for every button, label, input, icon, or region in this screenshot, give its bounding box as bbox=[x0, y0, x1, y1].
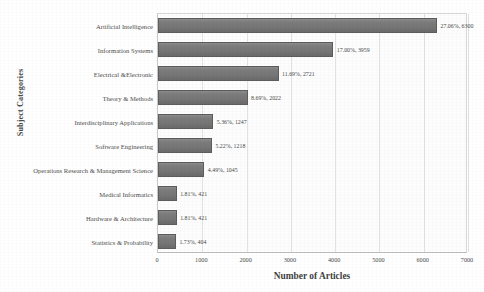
bar-value-label: 5.22%, 1218 bbox=[215, 143, 245, 149]
bar: 5.36%, 1247 bbox=[158, 114, 213, 129]
x-axis-tick-label: 2000 bbox=[239, 256, 251, 263]
bar-value-label: 5.36%, 1247 bbox=[217, 119, 247, 125]
bar: 8.69%, 2022 bbox=[158, 90, 248, 105]
bar: 27.06%, 6300 bbox=[158, 18, 437, 33]
bar-row: Medical Informatics1.81%, 421 bbox=[158, 182, 466, 206]
category-label: Theory & Methods bbox=[102, 95, 153, 102]
bar-fill bbox=[158, 210, 177, 225]
bar-value-label: 1.73%, 404 bbox=[179, 239, 206, 245]
bar-row: Interdisciplinary Applications5.36%, 124… bbox=[158, 110, 466, 134]
bar-value-label: 4.49%, 1045 bbox=[208, 167, 238, 173]
x-axis-tick-label: 1000 bbox=[195, 256, 207, 263]
plot-area: Artificial Intelligence27.06%, 6300Infor… bbox=[157, 13, 467, 253]
x-axis-tick-label: 3000 bbox=[284, 256, 296, 263]
bar: 4.49%, 1045 bbox=[158, 162, 204, 177]
bar-fill bbox=[158, 186, 177, 201]
gridline bbox=[468, 14, 469, 252]
category-label: Information Systems bbox=[98, 47, 153, 54]
bar: 5.22%, 1218 bbox=[158, 138, 212, 153]
category-label: Electrical &Electronic bbox=[94, 71, 153, 78]
bar-fill bbox=[158, 66, 279, 81]
bar-row: Theory & Methods8.69%, 2022 bbox=[158, 86, 466, 110]
x-axis-tick-label: 5000 bbox=[372, 256, 384, 263]
category-label: Hardware & Architecture bbox=[86, 215, 153, 222]
bar-row: Electrical &Electronic11.69%, 2721 bbox=[158, 62, 466, 86]
y-axis-title: Subject Categories bbox=[16, 51, 25, 155]
bar-fill bbox=[158, 18, 437, 33]
bar-row: Information Systems17.00%, 3959 bbox=[158, 38, 466, 62]
x-axis-tick-label: 7000 bbox=[461, 256, 473, 263]
bar: 11.69%, 2721 bbox=[158, 66, 279, 81]
bar: 1.81%, 421 bbox=[158, 210, 177, 225]
bar-fill bbox=[158, 234, 176, 249]
bar-row: Operations Research & Management Science… bbox=[158, 158, 466, 182]
bar-fill bbox=[158, 90, 248, 105]
category-label: Interdisciplinary Applications bbox=[74, 119, 153, 126]
category-label: Operations Research & Management Science bbox=[33, 167, 153, 174]
bar-fill bbox=[158, 138, 212, 153]
bar-value-label: 1.81%, 421 bbox=[180, 215, 207, 221]
x-axis-tick-label: 6000 bbox=[417, 256, 429, 263]
category-label: Statistics & Probability bbox=[91, 239, 153, 246]
category-label: Medical Informatics bbox=[99, 191, 153, 198]
category-label: Artificial Intelligence bbox=[96, 23, 153, 30]
bar: 1.73%, 404 bbox=[158, 234, 176, 249]
bar-value-label: 11.69%, 2721 bbox=[282, 71, 315, 77]
x-axis-tick-label: 0 bbox=[155, 256, 158, 263]
x-axis-tick-label: 4000 bbox=[328, 256, 340, 263]
bar-value-label: 1.81%, 421 bbox=[180, 191, 207, 197]
bar-row: Statistics & Probability1.73%, 404 bbox=[158, 230, 466, 254]
bar-value-label: 27.06%, 6300 bbox=[441, 23, 474, 29]
bar-fill bbox=[158, 114, 213, 129]
bar-row: Software Engineering5.22%, 1218 bbox=[158, 134, 466, 158]
category-label: Software Engineering bbox=[95, 143, 153, 150]
bar-value-label: 8.69%, 2022 bbox=[251, 95, 281, 101]
x-axis-title: Number of Articles bbox=[157, 271, 467, 281]
bar-value-label: 17.00%, 3959 bbox=[337, 47, 370, 53]
bar-fill bbox=[158, 42, 333, 57]
bar: 1.81%, 421 bbox=[158, 186, 177, 201]
bar-fill bbox=[158, 162, 204, 177]
bar: 17.00%, 3959 bbox=[158, 42, 333, 57]
bar-row: Artificial Intelligence27.06%, 6300 bbox=[158, 14, 466, 38]
bar-chart: Subject Categories Artificial Intelligen… bbox=[0, 0, 484, 292]
bar-row: Hardware & Architecture1.81%, 421 bbox=[158, 206, 466, 230]
